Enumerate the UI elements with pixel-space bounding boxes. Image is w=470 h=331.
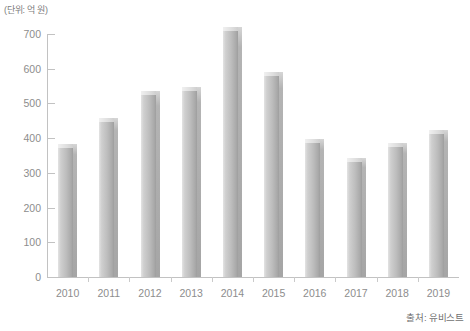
bar-top-face [223,27,238,31]
x-tick-mark [88,277,89,282]
x-tick-mark [253,277,254,282]
bar-2010 [58,148,73,277]
bar-top-face [141,91,156,95]
bar-side-face [238,27,242,277]
y-tick-mark [48,138,55,139]
x-label-2017: 2017 [335,286,376,300]
y-tick-600: 600 [47,69,55,70]
x-label-2013: 2013 [171,286,212,300]
x-label-2014: 2014 [212,286,253,300]
y-tick-300: 300 [47,173,55,174]
bar-side-face [197,87,201,277]
bar-top-face [388,143,403,147]
y-tick-mark [48,34,55,35]
y-axis-line [47,34,48,277]
x-tick-mark [294,277,295,282]
x-label-2012: 2012 [129,286,170,300]
x-label-2019: 2019 [418,286,459,300]
bar-chart: 0100200300400500600700 20102011201220132… [47,34,459,277]
y-tick-label: 500 [23,96,41,110]
x-tick-mark [418,277,419,282]
y-tick-100: 100 [47,242,55,243]
x-label-2011: 2011 [88,286,129,300]
x-label-2010: 2010 [47,286,88,300]
source-note: 출처: 유비스트 [406,310,464,324]
y-tick-0: 0 [47,277,55,278]
bar-side-face [73,144,77,277]
bar-2014 [223,31,238,277]
bar-2018 [388,147,403,277]
y-tick-700: 700 [47,34,55,35]
bar-top-face [347,158,362,162]
bar-top-face [305,139,320,143]
bar-side-face [156,91,160,277]
bar-2017 [347,162,362,277]
y-tick-label: 200 [23,201,41,215]
x-label-2016: 2016 [294,286,335,300]
x-tick-mark [171,277,172,282]
y-tick-label: 300 [23,166,41,180]
bar-2011 [99,122,114,277]
x-tick-mark [129,277,130,282]
bar-top-face [58,144,73,148]
bar-side-face [320,139,324,277]
y-tick-200: 200 [47,208,55,209]
y-tick-mark [48,277,55,278]
y-tick-label: 600 [23,62,41,76]
y-tick-label: 400 [23,131,41,145]
bar-2012 [141,95,156,277]
y-tick-500: 500 [47,103,55,104]
bar-2013 [182,91,197,277]
bar-side-face [362,158,366,277]
y-tick-mark [48,103,55,104]
bar-top-face [429,130,444,134]
y-tick-mark [48,242,55,243]
y-tick-label: 700 [23,27,41,41]
x-tick-mark [212,277,213,282]
bar-top-face [182,87,197,91]
x-tick-mark [335,277,336,282]
y-tick-400: 400 [47,138,55,139]
bar-2019 [429,134,444,277]
bar-2015 [264,76,279,277]
x-tick-mark [377,277,378,282]
bar-top-face [264,72,279,76]
bar-side-face [403,143,407,277]
y-tick-mark [48,208,55,209]
bar-side-face [444,130,448,277]
bar-side-face [114,118,118,277]
x-label-2015: 2015 [253,286,294,300]
y-tick-label: 0 [35,270,41,284]
bar-side-face [279,72,283,277]
y-tick-mark [48,173,55,174]
bar-2016 [305,143,320,277]
y-tick-mark [48,69,55,70]
unit-label: (단위: 억 원) [4,3,48,16]
bar-top-face [99,118,114,122]
y-tick-label: 100 [23,235,41,249]
x-label-2018: 2018 [377,286,418,300]
